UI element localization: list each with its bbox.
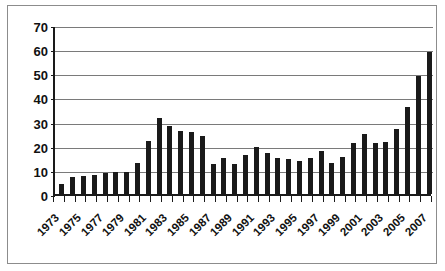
bar-1999 (340, 157, 345, 194)
x-axis-label-1991: 1991 (230, 212, 256, 238)
x-axis-label-1987: 1987 (187, 212, 213, 238)
bar-1993 (275, 158, 280, 194)
bar-1984 (178, 131, 183, 194)
bar-1990 (243, 155, 248, 194)
x-axis-label-1995: 1995 (273, 212, 299, 238)
bar-1979 (124, 172, 129, 194)
x-axis-label-1985: 1985 (165, 212, 191, 238)
bar-1997 (319, 151, 324, 194)
bar-1996 (308, 158, 313, 194)
y-axis-label-60: 60 (34, 45, 48, 58)
x-axis-labels: 1973197519771979198119831985198719891991… (53, 202, 431, 262)
bar-1988 (221, 158, 226, 194)
bar-1975 (81, 176, 86, 194)
y-axis-label-40: 40 (34, 93, 48, 106)
bar-1973 (59, 184, 64, 194)
bar-chart-image: 010203040506070 197319751977197919811983… (0, 0, 445, 271)
bar-1978 (113, 172, 118, 194)
bar-1985 (189, 132, 194, 194)
bar-2004 (394, 129, 399, 194)
bar-2002 (373, 143, 378, 194)
x-axis-label-1977: 1977 (79, 212, 105, 238)
x-axis-label-1975: 1975 (57, 212, 83, 238)
bar-1974 (70, 177, 75, 194)
bar-1994 (286, 159, 291, 194)
bar-2003 (383, 142, 388, 194)
bar-1991 (254, 147, 259, 194)
x-axis-label-1983: 1983 (144, 212, 170, 238)
bar-1982 (157, 118, 162, 194)
x-axis-label-1993: 1993 (252, 212, 278, 238)
bar-2001 (362, 134, 367, 194)
bar-1981 (146, 141, 151, 194)
bar-1995 (297, 161, 302, 194)
y-axis-label-30: 30 (34, 117, 48, 130)
bar-2000 (351, 143, 356, 194)
x-axis-label-1997: 1997 (295, 212, 321, 238)
plot-area: 010203040506070 (53, 27, 431, 196)
bar-1980 (135, 163, 140, 194)
bar-1976 (92, 175, 97, 194)
bar-2007 (427, 52, 432, 194)
bar-1977 (103, 173, 108, 194)
x-axis-label-2007: 2007 (403, 212, 429, 238)
x-axis-label-1981: 1981 (122, 212, 148, 238)
x-axis-label-2001: 2001 (338, 212, 364, 238)
y-axis-label-10: 10 (34, 165, 48, 178)
x-axis-label-1973: 1973 (36, 212, 62, 238)
y-axis-label-50: 50 (34, 69, 48, 82)
x-axis-label-1979: 1979 (101, 212, 127, 238)
bar-2005 (405, 107, 410, 194)
x-axis-tick (431, 196, 432, 202)
bar-1992 (265, 153, 270, 194)
x-axis-label-1999: 1999 (317, 212, 343, 238)
chart-frame: 010203040506070 197319751977197919811983… (7, 5, 437, 264)
y-axis-label-0: 0 (41, 190, 48, 203)
bars-series (55, 27, 431, 194)
y-axis-label-20: 20 (34, 141, 48, 154)
bar-2006 (416, 76, 421, 194)
y-axis-label-70: 70 (34, 21, 48, 34)
x-axis-label-1989: 1989 (209, 212, 235, 238)
bar-1987 (211, 164, 216, 194)
bar-1998 (329, 163, 334, 194)
bar-1983 (167, 126, 172, 194)
x-axis-label-2005: 2005 (381, 212, 407, 238)
bar-1989 (232, 164, 237, 194)
x-axis-label-2003: 2003 (360, 212, 386, 238)
bar-1986 (200, 136, 205, 194)
